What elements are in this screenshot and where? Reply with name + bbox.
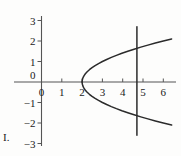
graph-plot <box>0 0 181 156</box>
curve-parabola-lower <box>82 82 172 125</box>
curve-parabola-upper <box>82 39 172 82</box>
x-tick-label-5: 5 <box>140 87 146 98</box>
y-tick-label-2: 2 <box>30 36 36 47</box>
x-tick-label-1: 1 <box>59 87 65 98</box>
y-tick-label-0: 0 <box>30 70 36 81</box>
x-tick-label-3: 3 <box>100 87 106 98</box>
x-tick-label-2: 2 <box>79 87 85 98</box>
data-curves <box>82 27 172 136</box>
y-tick-label-neg1: −1 <box>24 97 36 108</box>
x-tick-label-0: 0 <box>39 87 45 98</box>
axes-group <box>14 16 176 146</box>
figure-container: 0123456 3210−1−2−3 I. <box>0 0 181 156</box>
x-tick-label-4: 4 <box>120 87 126 98</box>
y-tick-label-neg2: −2 <box>24 118 36 129</box>
y-tick-label-1: 1 <box>30 56 36 67</box>
figure-number-label: I. <box>3 132 9 143</box>
x-tick-label-6: 6 <box>161 87 167 98</box>
y-tick-label-3: 3 <box>30 15 36 26</box>
y-tick-label-neg3: −3 <box>24 138 36 149</box>
